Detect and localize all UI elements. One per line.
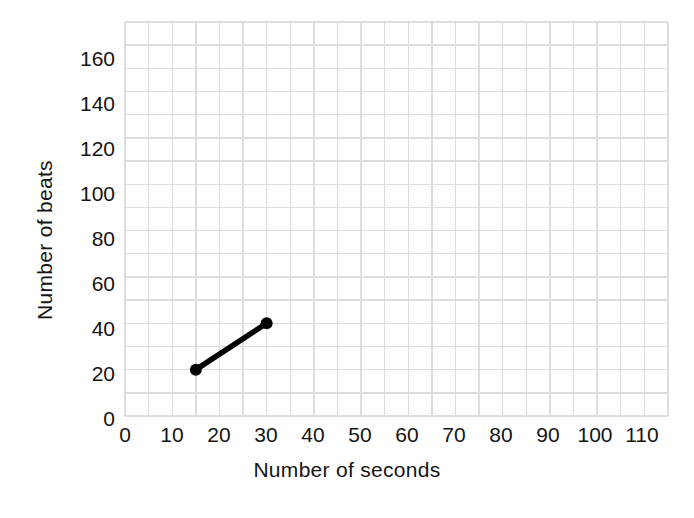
y-tick-label-60: 60	[45, 272, 115, 296]
y-tick-label-120: 120	[45, 137, 115, 161]
y-tick-label-80: 80	[45, 227, 115, 251]
y-tick-label-140: 140	[45, 92, 115, 116]
data-layer	[125, 22, 668, 416]
data-point	[261, 317, 273, 329]
x-axis-title: Number of seconds	[0, 458, 694, 482]
chart-figure: Number of beats Number of seconds 0 20 4…	[0, 0, 694, 518]
y-tick-label-160: 160	[45, 47, 115, 71]
y-tick-label-20: 20	[45, 362, 115, 386]
x-tick-label-110: 110	[612, 423, 672, 447]
y-tick-label-100: 100	[45, 182, 115, 206]
y-tick-label-40: 40	[45, 317, 115, 341]
data-line-0	[196, 323, 267, 369]
plot-area	[125, 22, 668, 416]
data-point	[190, 364, 202, 376]
